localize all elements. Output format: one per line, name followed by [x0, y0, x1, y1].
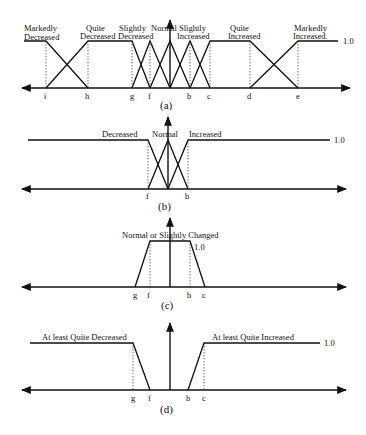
set-at-least-quite-decreased: [30, 343, 150, 390]
label-normal-or-slightly-changed: Normal or Slightly Changed: [122, 230, 219, 240]
tick-c: c: [202, 290, 206, 300]
tick-f: f: [147, 290, 150, 300]
caption-a: (a): [160, 99, 173, 112]
panel-d: At least Quite Decreased At least Quite …: [22, 323, 346, 416]
label-increased: Increased: [189, 129, 222, 139]
label-quite-decreased-2: Decreased: [80, 31, 116, 41]
tick-d: d: [247, 91, 252, 101]
caption-c: (c): [161, 299, 174, 312]
set-at-least-quite-increased: [188, 343, 320, 390]
tick-g: g: [130, 91, 135, 101]
label-normal: Normal: [152, 129, 179, 139]
tick-f: f: [146, 191, 149, 201]
caption-b: (b): [158, 200, 171, 213]
set-decreased: [28, 140, 168, 189]
label-markedly-increased-2: Increased.: [293, 31, 328, 41]
label-slightly-decreased-2: Decreased: [118, 31, 154, 41]
tick-c: c: [202, 393, 206, 403]
tick-g: g: [131, 393, 136, 403]
tick-b: b: [187, 91, 191, 101]
set-increased: [168, 140, 330, 189]
tick-b: b: [186, 393, 190, 403]
tick-e: e: [296, 91, 300, 101]
fuzzy-membership-figure: Markedly Decreased Quite Decreased Sligh…: [0, 0, 366, 435]
label-quite-increased-2: Increased: [228, 31, 261, 41]
panel-a: Markedly Decreased Quite Decreased Sligh…: [22, 20, 354, 112]
label-at-least-quite-decreased: At least Quite Decreased: [42, 332, 127, 342]
label-slightly-increased-2: Increased: [177, 31, 210, 41]
set-markedly-decreased: [24, 41, 88, 88]
panel-c: Normal or Slightly Changed 1.0 g f b c (…: [22, 218, 346, 312]
tick-h: h: [85, 91, 90, 101]
top-value-label: 1.0: [194, 242, 205, 252]
tick-b: b: [187, 290, 191, 300]
tick-f: f: [148, 393, 151, 403]
panel-b: Decreased Normal Increased 1.0 f b (b): [22, 117, 346, 213]
set-quite-increased: [190, 41, 298, 88]
label-at-least-quite-increased: At least Quite Increased: [212, 332, 295, 342]
set-slightly-decreased: [132, 41, 170, 88]
caption-d: (d): [160, 403, 173, 416]
label-markedly-decreased-2: Decreased: [24, 32, 60, 42]
label-decreased: Decreased: [102, 129, 138, 139]
label-normal: Normal: [151, 23, 178, 33]
tick-b: b: [185, 191, 189, 201]
tick-f: f: [148, 91, 151, 101]
top-value-label: 1.0: [334, 135, 345, 145]
set-markedly-increased: [250, 41, 338, 88]
tick-i: i: [44, 91, 47, 101]
top-value-label: 1.0: [324, 338, 335, 348]
tick-c: c: [207, 91, 211, 101]
tick-g: g: [133, 290, 138, 300]
top-value-label: 1.0: [343, 36, 354, 46]
